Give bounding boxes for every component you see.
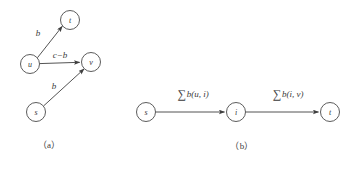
figure-canvas: u t v s b c−b b	[0, 0, 355, 169]
edge-label-s-to-v: b	[52, 81, 57, 91]
node-label-s: s	[34, 108, 37, 117]
node-b-s[interactable]: s	[137, 103, 156, 122]
edge-u-to-v	[40, 62, 80, 63]
node-label-i: i	[235, 108, 237, 117]
edge-label-i-to-t: ∑b(i, v)	[272, 87, 303, 101]
sum-term: b(i, v)	[282, 89, 304, 99]
edge-label-u-to-t: b	[36, 28, 41, 38]
node-label-v: v	[89, 58, 93, 67]
node-b-i[interactable]: i	[227, 103, 246, 122]
node-label-u: u	[28, 60, 32, 69]
sum-symbol: ∑	[272, 87, 281, 101]
panel-a-nodes: u t v s	[21, 11, 101, 122]
panel-b-edge-labels: ∑b(u, i) ∑b(i, v)	[177, 87, 303, 101]
panel-b: s i t ∑b(u, i) ∑b(i, v)	[137, 87, 340, 151]
node-label-s: s	[144, 108, 147, 117]
panel-a: u t v s b c−b b	[21, 11, 101, 151]
panel-a-caption: （a）	[38, 140, 61, 150]
panel-a-edge-labels: b c−b b	[36, 28, 68, 91]
node-a-v[interactable]: v	[82, 53, 101, 72]
edge-label-u-to-v: c−b	[53, 50, 68, 60]
node-a-s[interactable]: s	[27, 103, 46, 122]
edge-s-to-v	[44, 69, 85, 106]
panel-b-caption: （b）	[230, 141, 253, 151]
sum-term: b(u, i)	[187, 89, 209, 99]
sum-symbol: ∑	[177, 87, 186, 101]
node-a-u[interactable]: u	[21, 55, 40, 74]
panel-a-edges	[37, 26, 84, 106]
node-b-t[interactable]: t	[321, 103, 340, 122]
node-a-t[interactable]: t	[61, 11, 80, 30]
edge-label-s-to-i: ∑b(u, i)	[177, 87, 209, 101]
figure-root: u t v s b c−b b	[0, 0, 355, 169]
